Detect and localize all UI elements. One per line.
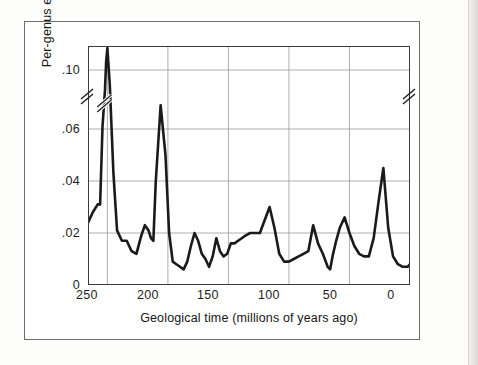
scanned-figure-page: Per-genus extinction rate 0 .02 .04 .06 … [0, 0, 478, 365]
axis-break-right-icon [403, 89, 415, 104]
axis-break-marks [0, 0, 478, 365]
scan-page-edge [468, 0, 478, 365]
axis-break-left-icon [81, 89, 93, 104]
